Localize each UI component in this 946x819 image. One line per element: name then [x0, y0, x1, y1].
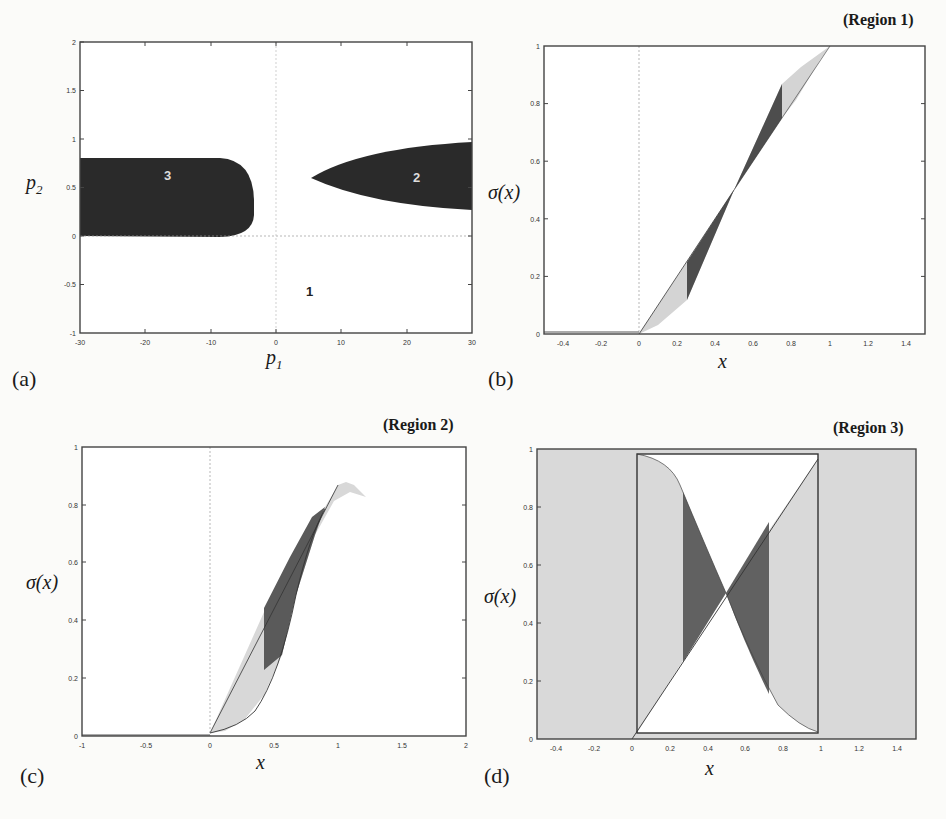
svg-text:-20: -20 — [140, 339, 150, 346]
svg-text:1: 1 — [529, 446, 533, 453]
svg-text:1.4: 1.4 — [901, 340, 911, 347]
svg-text:0.2: 0.2 — [665, 745, 675, 752]
svg-text:1.5: 1.5 — [66, 87, 76, 94]
svg-text:0.5: 0.5 — [269, 742, 279, 749]
svg-text:1.2: 1.2 — [863, 340, 873, 347]
svg-text:0: 0 — [72, 233, 76, 240]
svg-text:0.6: 0.6 — [68, 559, 78, 566]
x-axis-label: x — [718, 350, 727, 373]
y-axis-label: σ(x) — [484, 585, 516, 608]
x-axis-label: x — [705, 757, 714, 780]
svg-text:-10: -10 — [206, 339, 216, 346]
svg-text:0.2: 0.2 — [530, 273, 540, 280]
panel-b: (Region 1) 1 0.8 0.6 0.4 0.2 0 -0.4 -0.2 — [480, 0, 946, 405]
panel-letter: (c) — [20, 763, 44, 789]
panel-b-plot: 1 0.8 0.6 0.4 0.2 0 -0.4 -0.2 0 0.2 0.4 … — [480, 0, 946, 405]
x-axis-label: p1 — [266, 346, 283, 373]
svg-text:0.4: 0.4 — [710, 340, 720, 347]
svg-text:-0.5: -0.5 — [64, 281, 76, 288]
svg-text:0: 0 — [74, 733, 78, 740]
svg-text:1: 1 — [74, 444, 78, 451]
svg-text:0.4: 0.4 — [68, 617, 78, 624]
panel-letter: (a) — [12, 366, 36, 392]
svg-text:0: 0 — [630, 745, 634, 752]
svg-text:0.4: 0.4 — [703, 745, 713, 752]
svg-text:1.5: 1.5 — [397, 742, 407, 749]
svg-text:0.4: 0.4 — [523, 620, 533, 627]
svg-text:20: 20 — [403, 339, 411, 346]
svg-text:-0.4: -0.4 — [550, 745, 562, 752]
svg-text:1: 1 — [536, 43, 540, 50]
svg-text:0.8: 0.8 — [530, 100, 540, 107]
svg-text:1: 1 — [336, 742, 340, 749]
svg-text:-0.4: -0.4 — [557, 340, 569, 347]
svg-text:0.2: 0.2 — [672, 340, 682, 347]
svg-text:0.6: 0.6 — [748, 340, 758, 347]
svg-text:-30: -30 — [75, 339, 85, 346]
svg-text:1: 1 — [72, 136, 76, 143]
svg-text:-0.2: -0.2 — [595, 340, 607, 347]
svg-text:0.8: 0.8 — [523, 504, 533, 511]
svg-text:0.6: 0.6 — [530, 158, 540, 165]
svg-text:0: 0 — [536, 331, 540, 338]
svg-text:-0.2: -0.2 — [588, 745, 600, 752]
x-axis-label: x — [256, 751, 265, 774]
svg-text:0.6: 0.6 — [523, 562, 533, 569]
svg-text:10: 10 — [337, 339, 345, 346]
svg-text:1.2: 1.2 — [854, 745, 864, 752]
panel-a: 3 2 1 2 1.5 1 0.5 0 -0.5 -1 — [0, 0, 480, 405]
svg-text:0.8: 0.8 — [778, 745, 788, 752]
svg-text:0.8: 0.8 — [786, 340, 796, 347]
svg-text:-0.5: -0.5 — [140, 742, 152, 749]
svg-text:2: 2 — [464, 742, 468, 749]
svg-text:1: 1 — [819, 745, 823, 752]
panel-d: (Region 3) 1 0.8 0.6 0.4 0.2 0 -0.4 -0.2 — [480, 405, 946, 819]
panel-letter: (b) — [488, 366, 514, 392]
panel-c: (Region 2) 1 0.8 0.6 0.4 0.2 0 -1 -0.5 0 — [0, 405, 480, 819]
y-axis-label: p2 — [26, 171, 43, 198]
svg-text:0: 0 — [529, 736, 533, 743]
y-axis-label: σ(x) — [26, 571, 58, 594]
region-1-label: 1 — [306, 284, 313, 299]
panel-letter: (d) — [484, 763, 510, 789]
svg-text:0.6: 0.6 — [740, 745, 750, 752]
svg-text:2: 2 — [72, 39, 76, 46]
svg-text:-1: -1 — [79, 742, 85, 749]
panel-c-plot: 1 0.8 0.6 0.4 0.2 0 -1 -0.5 0 0.5 1 1.5 … — [0, 405, 480, 819]
svg-text:0.5: 0.5 — [66, 184, 76, 191]
svg-text:0: 0 — [208, 742, 212, 749]
svg-text:0.2: 0.2 — [523, 678, 533, 685]
svg-text:0: 0 — [274, 339, 278, 346]
svg-text:0: 0 — [637, 340, 641, 347]
region-3-label: 3 — [164, 168, 171, 183]
region-2-label: 2 — [413, 170, 420, 185]
svg-text:1: 1 — [828, 340, 832, 347]
svg-text:30: 30 — [468, 339, 476, 346]
y-axis-label: σ(x) — [488, 181, 520, 204]
svg-text:0.2: 0.2 — [68, 675, 78, 682]
svg-text:-1: -1 — [70, 330, 76, 337]
svg-text:0.8: 0.8 — [68, 502, 78, 509]
svg-text:0.4: 0.4 — [530, 216, 540, 223]
panel-a-plot: 3 2 1 2 1.5 1 0.5 0 -0.5 -1 — [0, 0, 480, 405]
svg-text:1.4: 1.4 — [892, 745, 902, 752]
